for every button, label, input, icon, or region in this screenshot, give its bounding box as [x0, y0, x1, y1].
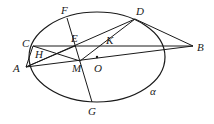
label-O: O: [94, 62, 102, 74]
label-K: K: [105, 34, 114, 46]
label-G: G: [88, 105, 96, 117]
label-D: D: [135, 5, 144, 17]
geometry-figure: A B C D E F G H K M O α: [0, 0, 214, 124]
segment-FG: [67, 18, 92, 102]
segment-DB: [135, 19, 193, 46]
label-B: B: [197, 41, 204, 53]
label-M: M: [71, 62, 82, 74]
label-C: C: [22, 37, 30, 49]
label-alpha: α: [150, 85, 156, 97]
figure-canvas: A B C D E F G H K M O α: [0, 0, 214, 124]
label-H: H: [34, 48, 44, 60]
label-E: E: [70, 32, 78, 44]
label-F: F: [60, 4, 68, 16]
label-A: A: [12, 62, 20, 74]
point-O: [96, 56, 98, 58]
